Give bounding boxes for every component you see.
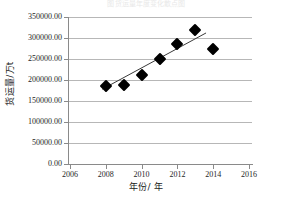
y-axis-tick-label: 350000.00 <box>28 13 62 21</box>
x-axis-tick-label: 2008 <box>86 170 126 179</box>
y-axis-tick <box>64 143 69 144</box>
y-axis-tick-label: 100000.00 <box>28 118 62 126</box>
plot-area <box>68 17 252 164</box>
x-axis-tick-label: 2016 <box>229 170 269 179</box>
y-axis-tick <box>64 38 69 39</box>
x-axis-tick <box>213 165 214 169</box>
gridline <box>68 143 252 144</box>
gridline <box>68 38 252 39</box>
x-axis-tick <box>106 165 107 169</box>
scatter-chart: 图 货运量年度变化散点图 0.0050000.00100000.00150000… <box>0 0 292 210</box>
y-axis-tick-label: 250000.00 <box>28 55 62 63</box>
y-axis-tick-label: 50000.00 <box>32 139 62 147</box>
x-axis-line <box>68 164 253 165</box>
y-axis-tick <box>64 122 69 123</box>
y-axis-tick-label: 150000.00 <box>28 97 62 105</box>
y-axis-title: 货运量/万t <box>5 52 16 116</box>
x-axis-tick <box>249 165 250 169</box>
x-axis-tick-label: 2012 <box>157 170 197 179</box>
gridline <box>68 80 252 81</box>
x-axis-tick-label: 2014 <box>193 170 233 179</box>
gridline <box>68 17 252 18</box>
x-axis-tick <box>70 165 71 169</box>
x-axis-title: 年份/ 年 <box>0 182 292 193</box>
x-axis-tick-label: 2010 <box>122 170 162 179</box>
x-axis-tick <box>177 165 178 169</box>
x-axis-tick <box>142 165 143 169</box>
y-axis-tick <box>64 59 69 60</box>
y-axis-tick-label: 200000.00 <box>28 76 62 84</box>
y-axis-tick <box>64 164 69 165</box>
x-axis-tick-label: 2006 <box>50 170 90 179</box>
y-axis-tick <box>64 17 69 18</box>
gridline <box>68 101 252 102</box>
y-axis-tick <box>64 80 69 81</box>
y-axis-tick-label: 300000.00 <box>28 34 62 42</box>
y-axis-tick-label: 0.00 <box>48 160 62 168</box>
gridline <box>68 122 252 123</box>
y-axis-tick <box>64 101 69 102</box>
